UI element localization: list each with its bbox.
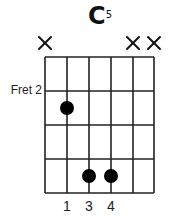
- chord-diagram: [0, 0, 170, 218]
- mute-x-icon: [148, 37, 160, 49]
- finger-dot: [104, 169, 118, 183]
- finger-number: 1: [60, 198, 74, 214]
- muted-marks: [39, 37, 160, 49]
- fret-position-label: Fret 2: [11, 83, 42, 97]
- finger-number: 4: [104, 198, 118, 214]
- finger-dot: [60, 101, 74, 115]
- mute-x-icon: [127, 37, 139, 49]
- mute-x-icon: [39, 37, 51, 49]
- finger-dot: [82, 169, 96, 183]
- finger-number: 3: [82, 198, 96, 214]
- fret-lines: [45, 57, 154, 193]
